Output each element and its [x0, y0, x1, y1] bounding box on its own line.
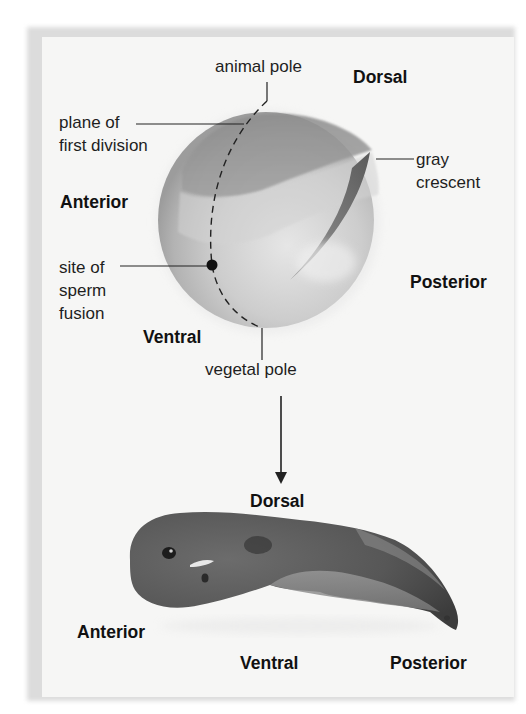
- label-tadpole-anterior: Anterior: [77, 621, 145, 644]
- label-vegetal-pole: vegetal pole: [205, 358, 297, 381]
- fertilized-egg: [156, 101, 380, 334]
- tadpole-eye: [162, 547, 176, 559]
- tadpole-body: [130, 512, 458, 630]
- arrow-head-icon: [275, 472, 287, 484]
- label-egg-anterior: Anterior: [60, 191, 128, 214]
- label-tadpole-ventral: Ventral: [240, 652, 298, 675]
- label-egg-posterior: Posterior: [410, 271, 487, 294]
- label-plane-of-first-division: plane of first division: [59, 111, 148, 157]
- label-gray-crescent: gray crescent: [416, 148, 480, 194]
- tadpole: [130, 512, 458, 634]
- label-egg-dorsal: Dorsal: [353, 66, 407, 89]
- label-egg-ventral: Ventral: [143, 326, 201, 349]
- label-tadpole-dorsal: Dorsal: [250, 490, 304, 513]
- sperm-fusion-dot: [207, 260, 218, 271]
- label-tadpole-posterior: Posterior: [390, 652, 467, 675]
- diagram-canvas: [0, 0, 526, 714]
- label-site-of-sperm-fusion: site of sperm fusion: [59, 256, 106, 325]
- label-animal-pole: animal pole: [215, 55, 302, 78]
- development-arrow: [275, 396, 287, 484]
